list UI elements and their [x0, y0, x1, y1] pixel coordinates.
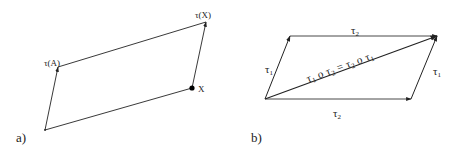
point-x-dot — [189, 85, 194, 90]
point-a-dot — [44, 129, 46, 131]
diagram-canvas — [0, 0, 456, 154]
segment-a-x — [45, 88, 192, 130]
label-tau-a: τ(A) — [44, 59, 60, 68]
label-tau-x: τ(X) — [195, 11, 211, 20]
label-right-tau1-sub: 1 — [437, 71, 441, 79]
translation-arrow-a — [45, 67, 58, 130]
segment-tau-a-tau-x — [58, 22, 206, 67]
label-x: X — [198, 85, 205, 94]
translation-arrow-x — [192, 22, 206, 88]
panel-b-label: b) — [251, 131, 262, 144]
label-right-tau1: τ1 — [433, 66, 441, 79]
label-left-tau1-sub: 1 — [269, 69, 273, 77]
label-bottom-tau2-sub: 2 — [337, 113, 341, 121]
label-left-tau1: τ1 — [265, 64, 273, 77]
label-top-tau2-sub: 2 — [355, 30, 359, 38]
panel-a-diagram — [44, 22, 206, 131]
label-top-tau2: τ2 — [351, 25, 359, 38]
panel-a-label: a) — [16, 131, 26, 144]
label-bottom-tau2: τ2 — [333, 108, 341, 121]
